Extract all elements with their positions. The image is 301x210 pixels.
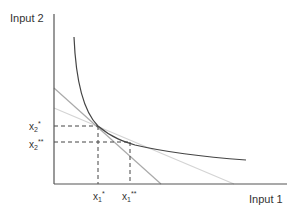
x-axis-label: Input 1 bbox=[249, 194, 283, 205]
label-x1-double-star: x1** bbox=[122, 190, 136, 203]
label-x2-double-star: x2** bbox=[29, 138, 43, 151]
isocost-line-light bbox=[54, 108, 234, 184]
y-axis-label: Input 2 bbox=[10, 13, 44, 24]
label-x2-star: x2* bbox=[29, 120, 41, 133]
diagram-canvas bbox=[0, 0, 301, 210]
label-x1-star: x1* bbox=[93, 190, 105, 203]
isocost-line-dark bbox=[54, 88, 161, 184]
